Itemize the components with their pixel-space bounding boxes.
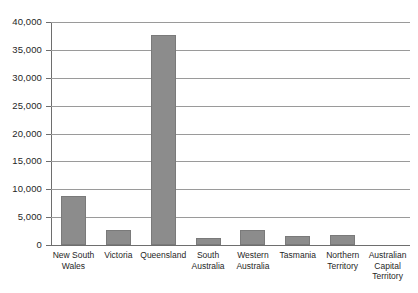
bar xyxy=(285,236,310,245)
y-tick-label: 25,000 xyxy=(12,101,42,111)
y-tick-label: 35,000 xyxy=(12,45,42,55)
bar xyxy=(61,196,86,245)
gridline-10000 xyxy=(51,189,410,190)
x-axis-label: South Australia xyxy=(183,250,234,271)
x-axis-label: Northern Territory xyxy=(317,250,368,271)
x-axis-label: Victoria xyxy=(93,250,144,261)
y-tick-label: 30,000 xyxy=(12,73,42,83)
y-tick-label: 5,000 xyxy=(18,212,42,222)
y-tick-label: 0 xyxy=(37,240,42,250)
gridline-35000 xyxy=(51,50,410,51)
x-axis-label: Queensland xyxy=(138,250,189,261)
x-axis-label: Australian Capital Territory xyxy=(362,250,413,282)
gridline-20000 xyxy=(51,134,410,135)
bar xyxy=(196,238,221,245)
x-axis-label: Tasmania xyxy=(272,250,323,261)
gridline-40000 xyxy=(51,22,410,23)
bar xyxy=(330,235,355,245)
gridline-15000 xyxy=(51,161,410,162)
y-tick-label: 20,000 xyxy=(12,129,42,139)
x-axis-label: New South Wales xyxy=(48,250,99,271)
bar xyxy=(151,35,176,245)
gridline-5000 xyxy=(51,217,410,218)
plot-area xyxy=(51,22,410,245)
bar xyxy=(240,230,265,245)
x-axis-label: Western Australia xyxy=(228,250,279,271)
bar-chart: 05,00010,00015,00020,00025,00030,00035,0… xyxy=(0,0,418,293)
gridline-30000 xyxy=(51,78,410,79)
gridline-25000 xyxy=(51,106,410,107)
y-tick-label: 15,000 xyxy=(12,156,42,166)
y-tick-label: 40,000 xyxy=(12,17,42,27)
y-tick-label: 10,000 xyxy=(12,184,42,194)
bar xyxy=(106,230,131,245)
gridline-0 xyxy=(51,245,410,246)
